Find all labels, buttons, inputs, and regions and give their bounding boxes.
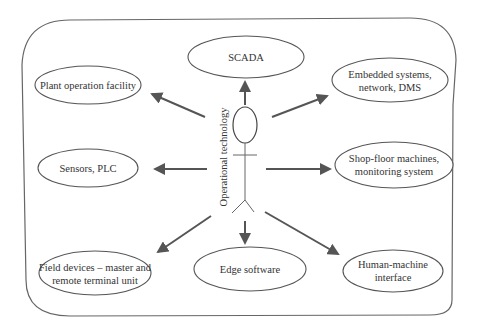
actor-head bbox=[233, 107, 257, 143]
arrow-to-embedded bbox=[272, 96, 327, 117]
node-plant-label: Plant operation facility bbox=[40, 80, 137, 91]
node-edge-label: Edge software bbox=[220, 264, 281, 275]
node-shopfloor-label-1: Shop-floor machines, bbox=[349, 153, 439, 164]
node-hmi-label-2: interface bbox=[375, 272, 412, 283]
node-embedded-label-1: Embedded systems, bbox=[348, 69, 431, 80]
arrow-to-hmi bbox=[265, 212, 338, 254]
actor-left-leg bbox=[232, 200, 245, 213]
node-plant-operation-facility: Plant operation facility bbox=[35, 66, 141, 104]
node-scada: SCADA bbox=[188, 36, 304, 78]
node-human-machine-interface: Human-machine interface bbox=[343, 250, 443, 292]
node-shop-floor-machines: Shop-floor machines, monitoring system bbox=[335, 142, 453, 188]
actor-operational-technology: Operational technology bbox=[218, 107, 257, 213]
node-field-label-2: remote terminal unit bbox=[52, 275, 138, 286]
node-hmi-label-1: Human-machine bbox=[358, 259, 428, 270]
node-embedded-label-2: network, DMS bbox=[359, 82, 422, 93]
actor-label: Operational technology bbox=[218, 107, 229, 207]
node-scada-label: SCADA bbox=[228, 52, 264, 63]
node-shopfloor-label-2: monitoring system bbox=[355, 166, 433, 177]
node-sensors-label: Sensors, PLC bbox=[59, 163, 116, 174]
arrow-to-plant bbox=[152, 94, 205, 117]
node-edge-software: Edge software bbox=[194, 247, 306, 291]
arrow-to-field bbox=[158, 216, 211, 252]
node-embedded-systems: Embedded systems, network, DMS bbox=[332, 58, 448, 102]
node-field-label-1: Field devices – master and bbox=[39, 262, 152, 273]
node-field-devices: Field devices – master and remote termin… bbox=[39, 251, 152, 295]
operational-technology-diagram: Operational technology SCADA Plant opera… bbox=[0, 0, 478, 330]
actor-right-leg bbox=[245, 200, 254, 212]
node-sensors-plc: Sensors, PLC bbox=[38, 149, 138, 187]
